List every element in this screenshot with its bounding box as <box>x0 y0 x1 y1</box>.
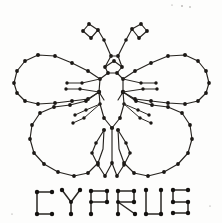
butterfly-connect-the-dots-illustration <box>0 0 222 223</box>
drawing-canvas: CYPRUS CYPRUS <box>0 0 222 223</box>
